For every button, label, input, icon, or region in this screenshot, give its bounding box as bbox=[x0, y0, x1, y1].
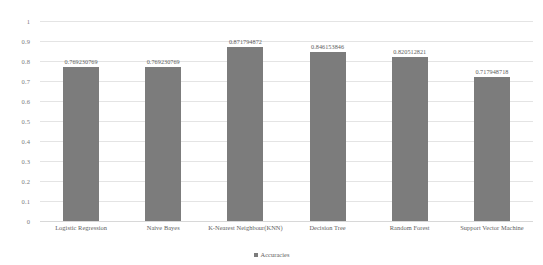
bar[interactable] bbox=[63, 67, 99, 221]
square-marker-icon bbox=[254, 253, 258, 257]
y-axis-tick-label: 1 bbox=[27, 18, 30, 25]
bar-value-label: 0.820512821 bbox=[393, 48, 426, 55]
y-axis-tick-label: 0.2 bbox=[22, 178, 30, 185]
bar[interactable] bbox=[310, 52, 346, 221]
legend-series-label: Accuracies bbox=[261, 251, 290, 258]
bar-value-label: 0.769230769 bbox=[147, 58, 180, 65]
bar-value-label: 0.846153846 bbox=[311, 43, 344, 50]
y-axis-tick-label: 0.4 bbox=[22, 138, 30, 145]
y-axis-tick-label: 0.9 bbox=[22, 38, 30, 45]
y-axis-tick-label: 0.7 bbox=[22, 78, 30, 85]
y-axis-tick-label: 0.6 bbox=[22, 98, 30, 105]
bar[interactable] bbox=[474, 77, 510, 221]
x-axis-category-label: Naive Bayes bbox=[147, 224, 180, 231]
gridline bbox=[40, 221, 533, 222]
bar-slot: 0.769230769 bbox=[122, 21, 204, 221]
x-axis-category-label: Random Forest bbox=[390, 224, 430, 231]
bar-slot: 0.820512821 bbox=[369, 21, 451, 221]
bar-slot: 0.871794872 bbox=[204, 21, 286, 221]
bar-value-label: 0.717948718 bbox=[475, 68, 508, 75]
bar-slot: 0.769230769 bbox=[40, 21, 122, 221]
bars-layer: 0.7692307690.7692307690.8717948720.84615… bbox=[40, 21, 533, 221]
y-axis-tick-label: 0.3 bbox=[22, 158, 30, 165]
y-axis-tick-label: 0.5 bbox=[22, 118, 30, 125]
bar[interactable] bbox=[392, 57, 428, 221]
x-axis: Logistic RegressionNaive BayesK-Nearest … bbox=[40, 224, 533, 238]
accuracies-bar-chart: 10.90.80.70.60.50.40.30.20.10 0.76923076… bbox=[0, 0, 543, 265]
y-axis: 10.90.80.70.60.50.40.30.20.10 bbox=[0, 21, 36, 221]
y-axis-tick-label: 0.1 bbox=[22, 198, 30, 205]
y-axis-tick-label: 0.8 bbox=[22, 58, 30, 65]
x-axis-category-label: Logistic Regression bbox=[55, 224, 107, 231]
bar[interactable] bbox=[145, 67, 181, 221]
x-axis-category-label: K-Nearest Neighbour(KNN) bbox=[208, 224, 283, 231]
chart-legend: Accuracies bbox=[0, 251, 543, 258]
bar-value-label: 0.769230769 bbox=[65, 58, 98, 65]
x-axis-category-label: Decision Tree bbox=[309, 224, 345, 231]
y-axis-tick-label: 0 bbox=[27, 218, 30, 225]
x-axis-category-label: Support Vector Machine bbox=[460, 224, 523, 231]
bar-slot: 0.717948718 bbox=[451, 21, 533, 221]
bar[interactable] bbox=[227, 47, 263, 221]
bar-value-label: 0.871794872 bbox=[229, 38, 262, 45]
bar-slot: 0.846153846 bbox=[287, 21, 369, 221]
